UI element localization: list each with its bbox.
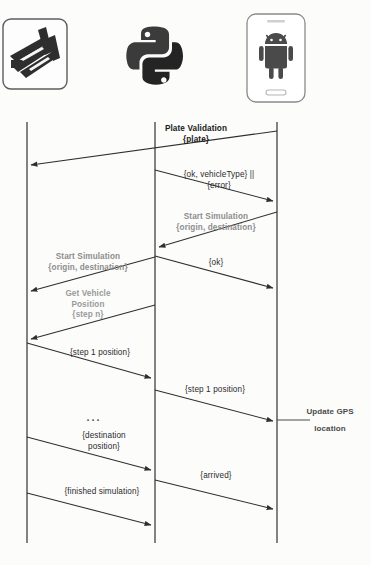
sequence-diagram-page: Plate Validation {plate} {ok, vehicleTyp… xyxy=(0,0,371,565)
message-label-m7: {step 1 position} xyxy=(55,348,145,359)
message-label-m5: {ok} xyxy=(186,258,246,269)
message-label-m10: {arrived} xyxy=(186,471,246,482)
message-label-m11: {finished simulation} xyxy=(47,487,157,498)
message-label-m9: {destination position} xyxy=(64,431,144,452)
message-label-m3: Start Simulation {origin, destination} xyxy=(156,212,276,233)
message-label-m6: Get Vehicle Position {step n} xyxy=(48,289,128,321)
message-label-m2: {ok, vehicleType} || {error} xyxy=(164,170,274,191)
note-update-gps-location: Update GPS location xyxy=(296,403,364,437)
message-label-m4: Start Simulation {origin, destination} xyxy=(28,252,148,273)
ellipsis-marker: ... xyxy=(74,412,114,423)
message-label-m1: Plate Validation {plate} xyxy=(146,124,246,145)
message-label-m8: {step 1 position} xyxy=(170,385,260,396)
message-arrow-m10 xyxy=(155,480,273,509)
message-arrow-m11 xyxy=(27,493,151,525)
